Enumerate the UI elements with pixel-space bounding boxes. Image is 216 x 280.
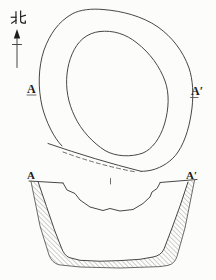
plan-restored-edge-dashed-line: [63, 152, 136, 172]
pit-plan-and-section-figure: 北 A: [0, 0, 216, 280]
north-indicator: [11, 11, 25, 68]
plan-outer-outline: [39, 9, 193, 171]
north-char-icon: [11, 11, 25, 23]
plan-view: A A′: [27, 9, 203, 172]
section-view: A A′: [27, 169, 197, 269]
plan-section-marker-left: A: [27, 82, 36, 96]
plan-cut-edge-line: [48, 144, 141, 172]
plan-section-marker-right: A′: [191, 84, 203, 98]
section-fill-surface-line: [63, 183, 160, 211]
section-hatched-band: [31, 181, 195, 269]
north-arrow-icon: [13, 29, 22, 68]
section-marker-right: A′: [186, 169, 197, 181]
section-marker-left: A: [27, 169, 35, 181]
diagram-page: 北 A: [0, 0, 216, 280]
plan-inner-outline: [67, 31, 169, 156]
